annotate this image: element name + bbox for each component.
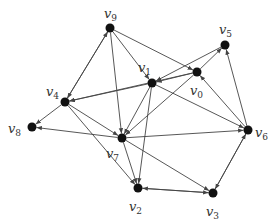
node-v9 xyxy=(106,24,115,33)
edge-v9-v0 xyxy=(114,30,193,70)
edge-v6-v0 xyxy=(200,75,245,126)
node-v1 xyxy=(148,79,157,88)
edge-v4-v9 xyxy=(67,32,107,98)
edge-v4-v8 xyxy=(36,105,62,125)
label-v3: v3 xyxy=(206,204,219,220)
node-v5 xyxy=(221,41,230,50)
label-v0: v0 xyxy=(190,83,203,100)
edge-v3-v2 xyxy=(142,188,208,192)
node-v4 xyxy=(61,98,70,107)
edges-layer xyxy=(36,30,247,193)
label-v8: v8 xyxy=(8,121,21,138)
node-v2 xyxy=(134,184,143,193)
edge-v6-v3 xyxy=(215,134,246,189)
label-v9: v9 xyxy=(104,6,117,23)
edge-v7-v6 xyxy=(126,130,243,137)
node-v0 xyxy=(193,68,202,77)
edge-v0-v7 xyxy=(125,75,193,135)
edge-v1-v4 xyxy=(69,84,147,101)
node-v6 xyxy=(244,126,253,135)
edge-v5-v1 xyxy=(156,47,221,81)
label-v2: v2 xyxy=(129,199,142,216)
label-v4: v4 xyxy=(46,84,59,101)
edge-v4-v2 xyxy=(68,105,135,184)
graph-diagram: v0v1v2v3v4v5v6v7v8v9 xyxy=(0,0,278,220)
label-v1: v1 xyxy=(138,60,151,77)
edge-v1-v2 xyxy=(139,87,152,183)
node-v8 xyxy=(28,123,37,132)
edge-v0-v5 xyxy=(200,48,222,69)
edge-v7-v8 xyxy=(36,128,117,138)
edge-v4-v7 xyxy=(69,104,118,135)
node-v3 xyxy=(209,189,218,198)
edge-v6-v5 xyxy=(226,49,247,125)
node-v7 xyxy=(118,134,127,143)
edge-v7-v2 xyxy=(123,142,136,183)
label-v5: v5 xyxy=(219,22,232,39)
label-v6: v6 xyxy=(255,125,268,142)
edge-v9-v7 xyxy=(110,32,121,133)
label-v7: v7 xyxy=(106,146,119,163)
